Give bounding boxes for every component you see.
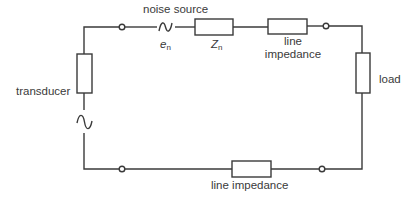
transducer-resistor xyxy=(77,54,92,93)
circuit-diagram xyxy=(0,0,413,199)
zn-impedance xyxy=(195,19,233,35)
zn-label: Zn xyxy=(211,38,222,54)
en-label: en xyxy=(160,38,171,54)
wire-left-bottom xyxy=(84,133,119,169)
line-impedance-bottom xyxy=(232,161,271,177)
line-impedance-top-line1: line xyxy=(262,35,324,48)
terminal-top-right xyxy=(323,23,329,29)
noise-source-icon xyxy=(159,23,172,31)
terminal-bottom-right xyxy=(319,166,325,172)
line-impedance-top-line2: impedance xyxy=(262,48,324,61)
terminal-top-left xyxy=(119,24,125,30)
en-sub: n xyxy=(166,43,170,52)
wire-right xyxy=(329,26,362,53)
wire-right-bottom xyxy=(325,93,362,169)
line-impedance-top xyxy=(268,19,307,34)
transducer-source-icon xyxy=(77,115,92,128)
zn-sub: n xyxy=(218,43,222,52)
wire-left-top xyxy=(84,27,119,54)
noise-source-label: noise source xyxy=(143,3,208,16)
load-label: load xyxy=(379,73,401,86)
terminal-bottom-left xyxy=(119,166,125,172)
line-impedance-bottom-label: line impedance xyxy=(211,179,288,192)
zn-main: Z xyxy=(211,38,218,50)
transducer-label: transducer xyxy=(16,85,70,98)
load-impedance xyxy=(356,53,370,93)
line-impedance-top-label: line impedance xyxy=(262,35,324,61)
